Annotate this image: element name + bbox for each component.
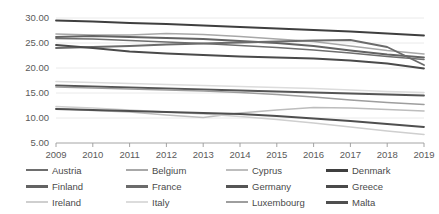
legend-swatch-icon [126, 185, 148, 188]
x-tick-label: 2018 [377, 149, 398, 160]
axis-lines [56, 143, 424, 147]
y-tick-label: 10.00 [25, 112, 49, 123]
legend-swatch-icon [226, 169, 248, 172]
legend-label: Denmark [352, 165, 391, 176]
x-tick-label: 2017 [340, 149, 361, 160]
x-tick-label: 2014 [229, 149, 250, 160]
legend-label: Cyprus [252, 165, 282, 176]
chart-legend: AustriaBelgiumCyprusDenmarkFinlandFrance… [0, 160, 439, 214]
line-chart-svg: 5.0010.0015.0020.0025.0030.00 2009201020… [0, 0, 439, 160]
x-tick-label: 2013 [193, 149, 214, 160]
legend-swatch-icon [26, 185, 48, 188]
x-tick-label: 2009 [45, 149, 66, 160]
legend-item-belgium[interactable]: Belgium [126, 165, 226, 176]
legend-swatch-icon [126, 169, 148, 172]
legend-item-ireland[interactable]: Ireland [26, 197, 126, 208]
series-lines [56, 21, 424, 135]
plot-area: 5.0010.0015.0020.0025.0030.00 2009201020… [0, 0, 439, 160]
y-tick-label: 20.00 [25, 62, 49, 73]
legend-swatch-icon [226, 201, 248, 204]
chart-container: 5.0010.0015.0020.0025.0030.00 2009201020… [0, 0, 439, 214]
legend-label: France [152, 181, 182, 192]
x-axis-tick-labels: 2009201020112012201320142015201620172018… [45, 149, 434, 160]
legend-item-italy[interactable]: Italy [126, 197, 226, 208]
y-tick-label: 15.00 [25, 87, 49, 98]
legend-row: IrelandItalyLuxembourgMalta [26, 194, 431, 210]
x-tick-label: 2019 [413, 149, 434, 160]
legend-label: Ireland [52, 197, 81, 208]
x-tick-label: 2011 [119, 149, 139, 160]
legend-swatch-icon [326, 185, 348, 188]
legend-label: Germany [252, 181, 291, 192]
y-tick-label: 30.00 [25, 12, 49, 23]
legend-label: Austria [52, 165, 82, 176]
legend-item-germany[interactable]: Germany [226, 181, 326, 192]
x-tick-label: 2010 [82, 149, 103, 160]
legend-label: Italy [152, 197, 169, 208]
legend-row: AustriaBelgiumCyprusDenmark [26, 162, 431, 178]
legend-item-denmark[interactable]: Denmark [326, 165, 426, 176]
x-tick-label: 2016 [303, 149, 324, 160]
y-axis-tick-labels: 5.0010.0015.0020.0025.0030.00 [25, 12, 49, 148]
legend-swatch-icon [226, 185, 248, 188]
legend-swatch-icon [126, 201, 148, 204]
x-tick-label: 2012 [156, 149, 177, 160]
legend-item-cyprus[interactable]: Cyprus [226, 165, 326, 176]
legend-item-malta[interactable]: Malta [326, 197, 426, 208]
legend-swatch-icon [26, 169, 48, 172]
legend-swatch-icon [326, 169, 348, 172]
legend-item-austria[interactable]: Austria [26, 165, 126, 176]
x-tick-label: 2015 [266, 149, 287, 160]
y-tick-label: 25.00 [25, 37, 49, 48]
legend-label: Malta [352, 197, 375, 208]
y-tick-label: 5.00 [31, 137, 50, 148]
legend-item-finland[interactable]: Finland [26, 181, 126, 192]
legend-swatch-icon [326, 201, 348, 204]
legend-label: Greece [352, 181, 383, 192]
legend-item-greece[interactable]: Greece [326, 181, 426, 192]
legend-item-france[interactable]: France [126, 181, 226, 192]
legend-label: Luxembourg [252, 197, 305, 208]
legend-item-luxembourg[interactable]: Luxembourg [226, 197, 326, 208]
series-line-denmark [56, 21, 424, 36]
legend-label: Belgium [152, 165, 186, 176]
legend-row: FinlandFranceGermanyGreece [26, 178, 431, 194]
legend-swatch-icon [26, 201, 48, 204]
legend-label: Finland [52, 181, 83, 192]
